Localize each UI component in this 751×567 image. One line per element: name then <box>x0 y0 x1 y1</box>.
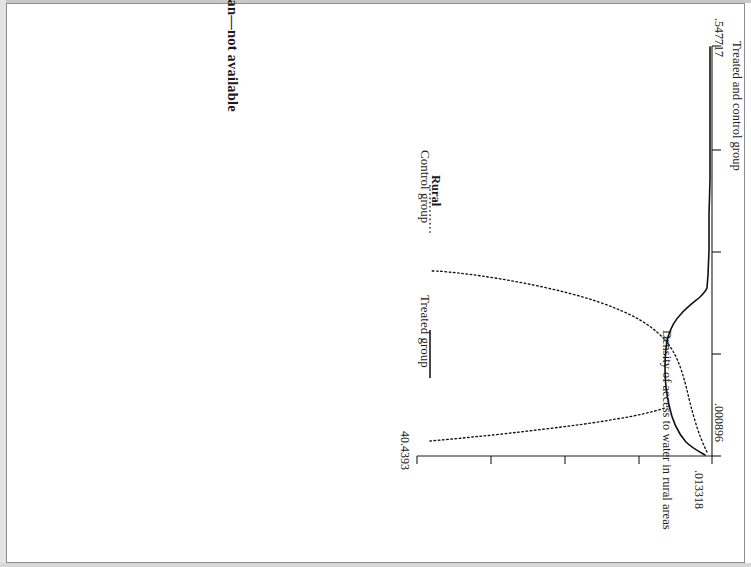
x-axis-title: Treated and control group <box>729 41 744 171</box>
scan-edge-left <box>0 0 6 567</box>
page-border <box>6 3 745 563</box>
scan-edge-top <box>0 0 751 3</box>
y-tick-label-max: 40.4393 <box>397 431 412 470</box>
y-tick-label-min: .013318 <box>691 470 706 509</box>
scan-edge-bottom <box>0 563 751 567</box>
legend-label-control-group: Control group <box>417 150 433 223</box>
x-tick-label-max: .547717 <box>711 18 726 57</box>
series-control-group-tail <box>430 408 665 441</box>
scanned-figure-page: Urban—not available Rural Treated group … <box>0 0 751 567</box>
density-plot-svg <box>0 0 751 567</box>
panel-heading-urban: Urban—not available <box>224 0 241 112</box>
legend-label-treated-group: Treated group <box>417 295 433 368</box>
x-tick-label-min: .000896 <box>711 403 726 442</box>
plot-area <box>0 0 751 567</box>
y-axis-title: Density of access to water in rural area… <box>659 330 674 530</box>
